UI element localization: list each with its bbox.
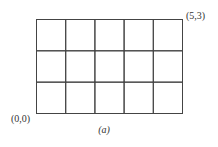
grid-cell <box>124 82 153 113</box>
grid-cell <box>66 20 95 51</box>
grid-cell <box>37 51 66 82</box>
grid-cell <box>124 51 153 82</box>
grid-cell <box>66 51 95 82</box>
grid-cell <box>37 20 66 51</box>
grid-cell <box>153 51 182 82</box>
figure-caption: (a) <box>98 124 110 136</box>
grid-cell <box>95 20 124 51</box>
grid-cell <box>124 20 153 51</box>
grid-cell <box>153 20 182 51</box>
grid-cell <box>153 82 182 113</box>
bottom-left-label: (0,0) <box>11 113 30 125</box>
grid-cell <box>66 82 95 113</box>
grid <box>37 20 183 114</box>
top-right-label: (5,3) <box>186 10 205 22</box>
grid-cell <box>95 82 124 113</box>
grid-diagram: (5,3) (0,0) (a) <box>0 0 218 147</box>
grid-cell <box>95 51 124 82</box>
grid-cell <box>37 82 66 113</box>
